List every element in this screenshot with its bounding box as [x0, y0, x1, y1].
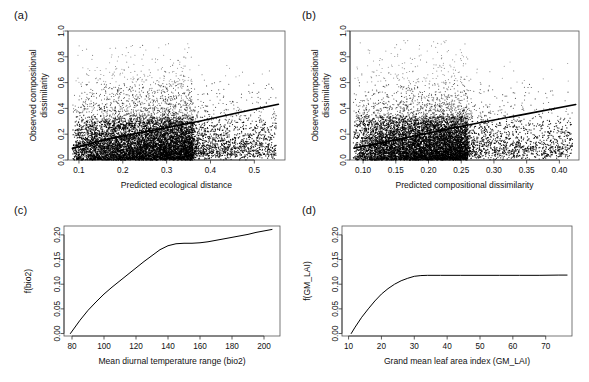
- svg-text:0.05: 0.05: [331, 300, 340, 316]
- svg-text:120: 120: [129, 342, 143, 351]
- svg-text:0.35: 0.35: [519, 166, 535, 175]
- panel-b: (b) 0.100.150.200.250.300.350.400.00.20.…: [294, 0, 589, 196]
- svg-text:0.0: 0.0: [339, 154, 348, 166]
- panel-c-plot: 801001201401601802000.000.050.100.150.20…: [0, 196, 295, 382]
- panel-d: (d) 102030405060700.000.050.100.150.20Gr…: [294, 196, 589, 382]
- svg-text:20: 20: [377, 342, 387, 351]
- svg-text:0.30: 0.30: [486, 166, 502, 175]
- svg-text:0.10: 0.10: [331, 276, 340, 292]
- svg-text:0.4: 0.4: [205, 166, 217, 175]
- svg-text:0.6: 0.6: [339, 76, 348, 88]
- svg-text:Predicted ecological distance: Predicted ecological distance: [121, 180, 233, 190]
- svg-text:f(GM_LAI): f(GM_LAI): [302, 261, 312, 301]
- svg-text:0.0: 0.0: [57, 154, 66, 166]
- svg-text:0.5: 0.5: [249, 166, 261, 175]
- svg-text:0.1: 0.1: [73, 166, 85, 175]
- svg-text:0.20: 0.20: [331, 226, 340, 242]
- panel-c-tag: (c): [14, 204, 27, 216]
- svg-text:0.15: 0.15: [331, 251, 340, 267]
- svg-text:0.4: 0.4: [57, 102, 66, 114]
- svg-text:dissimilarity: dissimilarity: [321, 73, 331, 118]
- svg-text:0.10: 0.10: [355, 166, 371, 175]
- svg-text:100: 100: [97, 342, 111, 351]
- svg-text:0.4: 0.4: [339, 102, 348, 114]
- svg-text:Grand mean leaf area index (GM: Grand mean leaf area index (GM_LAI): [384, 356, 530, 366]
- svg-text:0.8: 0.8: [57, 51, 66, 63]
- svg-text:Observed compositional: Observed compositional: [310, 49, 320, 141]
- svg-text:0.3: 0.3: [161, 166, 173, 175]
- svg-text:0.00: 0.00: [53, 325, 62, 341]
- svg-text:Predicted compositional dissim: Predicted compositional dissimilarity: [395, 180, 534, 190]
- svg-text:0.00: 0.00: [331, 325, 340, 341]
- svg-text:0.6: 0.6: [57, 76, 66, 88]
- svg-text:160: 160: [193, 342, 207, 351]
- svg-text:0.15: 0.15: [388, 166, 404, 175]
- svg-text:0.15: 0.15: [53, 251, 62, 267]
- panel-d-plot: 102030405060700.000.050.100.150.20Grand …: [294, 196, 589, 382]
- svg-text:1.0: 1.0: [339, 25, 348, 37]
- svg-text:10: 10: [344, 342, 354, 351]
- svg-text:dissimilarity: dissimilarity: [39, 73, 49, 118]
- panel-b-plot: 0.100.150.200.250.300.350.400.00.20.40.6…: [294, 0, 589, 196]
- svg-text:0.2: 0.2: [339, 128, 348, 140]
- svg-text:1.0: 1.0: [57, 25, 66, 37]
- panel-d-tag: (d): [302, 204, 316, 216]
- svg-text:50: 50: [475, 342, 485, 351]
- svg-text:0.8: 0.8: [339, 51, 348, 63]
- svg-text:0.25: 0.25: [453, 166, 469, 175]
- svg-text:0.2: 0.2: [117, 166, 129, 175]
- svg-text:0.20: 0.20: [421, 166, 437, 175]
- svg-text:f(bio2): f(bio2): [23, 269, 33, 293]
- panel-a-tag: (a): [14, 9, 28, 21]
- svg-text:200: 200: [257, 342, 271, 351]
- figure-panel-grid: (a) 0.10.20.30.40.50.00.20.40.60.81.0Pre…: [0, 0, 589, 382]
- svg-text:180: 180: [225, 342, 239, 351]
- svg-text:60: 60: [508, 342, 518, 351]
- svg-text:0.20: 0.20: [53, 226, 62, 242]
- panel-a: (a) 0.10.20.30.40.50.00.20.40.60.81.0Pre…: [0, 0, 295, 196]
- svg-text:Observed compositional: Observed compositional: [28, 49, 38, 141]
- svg-text:70: 70: [541, 342, 551, 351]
- svg-text:80: 80: [67, 342, 77, 351]
- svg-text:30: 30: [410, 342, 420, 351]
- svg-text:40: 40: [443, 342, 453, 351]
- svg-text:0.10: 0.10: [53, 276, 62, 292]
- svg-text:140: 140: [161, 342, 175, 351]
- panel-a-plot: 0.10.20.30.40.50.00.20.40.60.81.0Predict…: [0, 0, 295, 196]
- svg-text:0.05: 0.05: [53, 300, 62, 316]
- svg-text:0.40: 0.40: [551, 166, 567, 175]
- svg-text:0.2: 0.2: [57, 128, 66, 140]
- panel-b-tag: (b): [302, 9, 316, 21]
- panel-c: (c) 801001201401601802000.000.050.100.15…: [0, 196, 295, 382]
- svg-text:Mean diurnal temperature range: Mean diurnal temperature range (bio2): [98, 356, 245, 366]
